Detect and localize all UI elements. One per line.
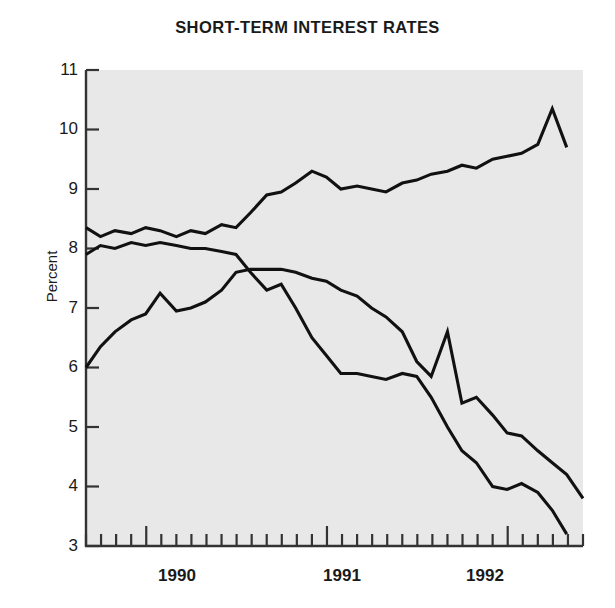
plot-area (0, 0, 615, 608)
chart-figure: SHORT-TERM INTEREST RATES Percent 11 10 … (0, 0, 615, 608)
plot-background (86, 70, 583, 546)
